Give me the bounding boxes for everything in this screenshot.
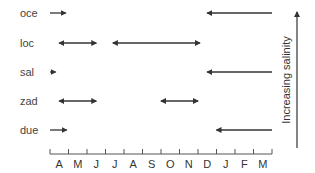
month-label: S [148,158,155,170]
row-label-sal: sal [20,66,34,78]
month-label: N [185,158,193,170]
month-axis: AMJJASONDJFM [50,149,272,170]
salinity-axis-label: Increasing salinity [280,36,292,124]
month-label: O [166,158,175,170]
month-label: J [112,158,118,170]
month-label: M [73,158,82,170]
month-label: A [56,158,64,170]
salinity-timeline-diagram: ocelocsalzaddue AMJJASONDJFM Increasing … [0,0,315,173]
month-label: J [94,158,100,170]
month-label: D [203,158,211,170]
row-label-zad: zad [20,95,38,107]
salinity-axis: Increasing salinity [280,12,297,148]
month-label: F [241,158,248,170]
row-label-oce: oce [20,7,38,19]
month-label: A [130,158,138,170]
row-label-due: due [20,124,38,136]
row-label-loc: loc [20,37,35,49]
month-label: M [258,158,267,170]
rows-group: ocelocsalzaddue [20,7,272,136]
month-label: J [223,158,229,170]
